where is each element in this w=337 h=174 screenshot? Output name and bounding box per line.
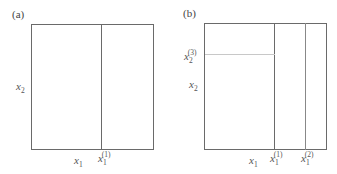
panel-a-x2-label: x2 xyxy=(16,80,25,95)
panel-b-domain-box xyxy=(204,23,327,150)
panel-a-x1-split-label: x1(1) xyxy=(98,150,110,167)
panel-b-x2-split-label: x2(3) xyxy=(184,48,196,65)
panel-b-x1-split2-label: x1(2) xyxy=(301,150,313,167)
panel-b-split-x1-2 xyxy=(305,23,306,150)
panel-a-x1-label: x1 xyxy=(74,154,83,169)
panel-b-x1-split1-label: x1(1) xyxy=(270,150,282,167)
panel-a-label: (a) xyxy=(12,8,24,20)
panel-a-split-x1-1 xyxy=(101,24,102,150)
panel-b-x2-label: x2 xyxy=(189,78,198,93)
panel-b-x1-label: x1 xyxy=(249,154,258,169)
panel-b-split-x2-3 xyxy=(205,54,275,55)
panel-b-split-x1-1 xyxy=(274,23,275,150)
panel-a-domain-box xyxy=(31,24,154,150)
panel-b-label: (b) xyxy=(183,7,196,19)
